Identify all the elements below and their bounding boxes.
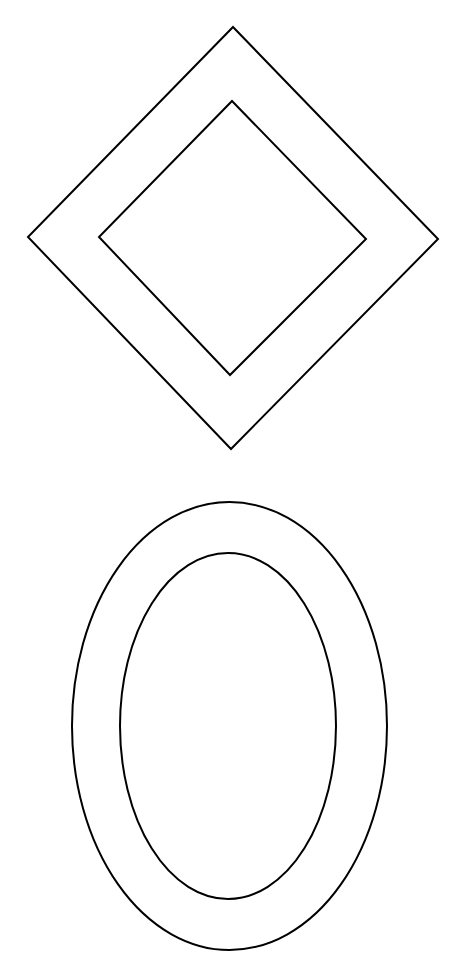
oval-frame: [72, 502, 387, 950]
diamond-frame: [28, 27, 438, 449]
shapes-canvas: [0, 0, 463, 961]
outer-diamond: [28, 27, 438, 449]
inner-diamond: [99, 101, 366, 375]
inner-ellipse: [120, 553, 336, 899]
